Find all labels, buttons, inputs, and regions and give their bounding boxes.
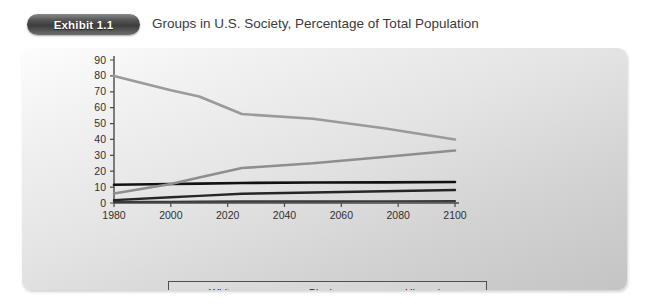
svg-text:0: 0 bbox=[100, 197, 106, 209]
line-chart-svg: 0102030405060708090 19802000202020402060… bbox=[22, 48, 627, 290]
series-line-hispanic bbox=[114, 151, 455, 194]
series-lines bbox=[114, 76, 455, 202]
svg-text:2080: 2080 bbox=[386, 209, 410, 221]
exhibit-header: Exhibit 1.1 Groups in U.S. Society, Perc… bbox=[0, 0, 650, 48]
y-axis: 0102030405060708090 bbox=[94, 54, 114, 209]
legend-item-white: White bbox=[177, 287, 263, 290]
svg-text:70: 70 bbox=[94, 85, 106, 97]
exhibit-badge-label: Exhibit 1.1 bbox=[54, 19, 114, 31]
chart-legend: White Black Hispanic American Indian and… bbox=[168, 281, 487, 290]
svg-text:50: 50 bbox=[94, 117, 106, 129]
legend-row-1: White Black Hispanic bbox=[177, 287, 478, 290]
plot-area: 0102030405060708090 19802000202020402060… bbox=[22, 48, 627, 290]
page-title: Groups in U.S. Society, Percentage of To… bbox=[152, 16, 479, 31]
legend-item-black: Black bbox=[277, 287, 359, 290]
svg-text:10: 10 bbox=[94, 181, 106, 193]
series-line-american-indian-and-alaska-native bbox=[114, 201, 455, 202]
svg-text:2020: 2020 bbox=[216, 209, 240, 221]
svg-text:80: 80 bbox=[94, 69, 106, 81]
svg-text:90: 90 bbox=[94, 54, 106, 66]
series-line-white bbox=[114, 76, 455, 140]
x-axis: 1980200020202040206020802100 bbox=[102, 203, 467, 221]
svg-text:2100: 2100 bbox=[443, 209, 467, 221]
legend-item-hispanic: Hispanic bbox=[373, 287, 473, 290]
svg-text:2040: 2040 bbox=[273, 209, 297, 221]
svg-text:2060: 2060 bbox=[330, 209, 354, 221]
legend-label-hispanic: Hispanic bbox=[405, 287, 445, 290]
svg-text:2000: 2000 bbox=[159, 209, 183, 221]
svg-text:60: 60 bbox=[94, 101, 106, 113]
svg-text:40: 40 bbox=[94, 133, 106, 145]
svg-text:1980: 1980 bbox=[102, 209, 126, 221]
legend-label-white: White bbox=[209, 287, 236, 290]
series-line-asian-american-and-pacific-islander bbox=[114, 190, 455, 200]
svg-text:20: 20 bbox=[94, 165, 106, 177]
svg-text:30: 30 bbox=[94, 149, 106, 161]
chart-panel: 0102030405060708090 19802000202020402060… bbox=[22, 48, 627, 290]
legend-label-black: Black bbox=[309, 287, 335, 290]
exhibit-badge: Exhibit 1.1 bbox=[27, 14, 140, 35]
